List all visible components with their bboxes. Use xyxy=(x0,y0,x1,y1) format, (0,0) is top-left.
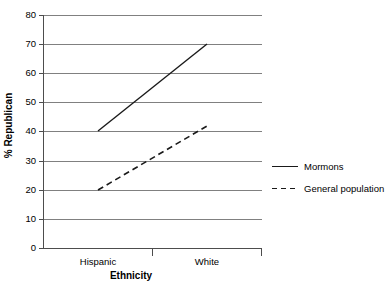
chart-legend: Mormons General population xyxy=(272,155,384,199)
legend-label-general-population: General population xyxy=(304,183,384,194)
data-series xyxy=(98,44,207,190)
legend-item-mormons: Mormons xyxy=(272,155,384,177)
series-line-mormons xyxy=(98,44,207,131)
legend-item-general-population: General population xyxy=(272,177,384,199)
x-axis xyxy=(43,248,262,256)
plot-area xyxy=(0,0,385,292)
chart-figure: % Republican 80 70 60 50 40 30 20 10 0 xyxy=(0,0,385,292)
x-tick-label-hispanic: Hispanic xyxy=(80,256,116,267)
x-axis-title: Ethnicity xyxy=(0,270,262,281)
series-line-general-population xyxy=(98,126,207,190)
y-axis xyxy=(39,15,44,249)
gridlines xyxy=(43,16,262,220)
legend-dashed-line-icon xyxy=(272,182,298,194)
legend-label-mormons: Mormons xyxy=(304,161,344,172)
legend-solid-line-icon xyxy=(272,160,298,172)
x-tick-label-white: White xyxy=(195,256,219,267)
